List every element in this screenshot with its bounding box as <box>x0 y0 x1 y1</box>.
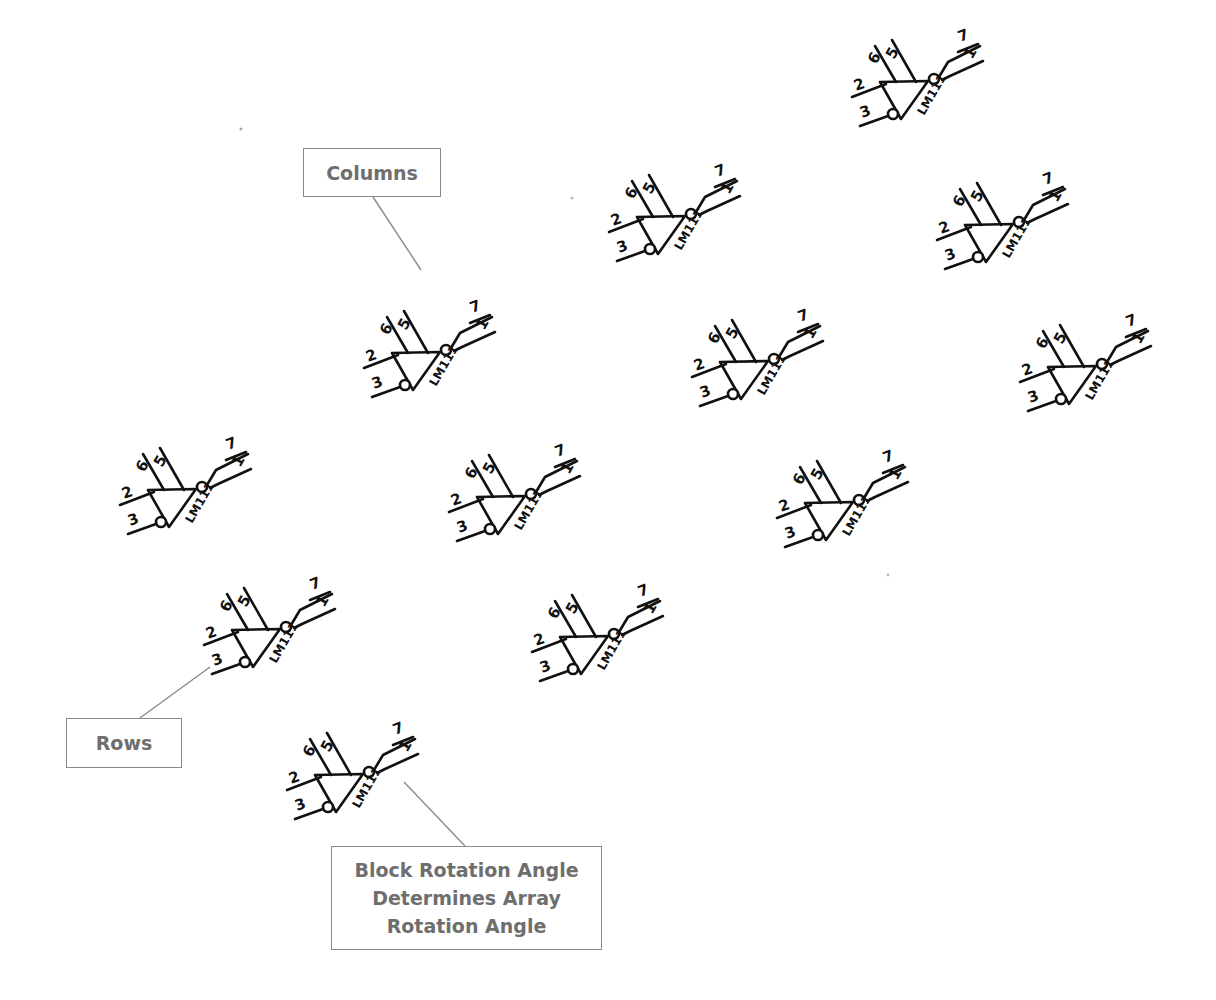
pin-3-label: 3 <box>782 522 798 542</box>
pin-2-label: 2 <box>1019 359 1035 379</box>
pin-5-label: 5 <box>317 737 338 755</box>
pin-7-label: 7 <box>955 25 971 45</box>
lm111-block: 652371LM111 <box>608 160 740 261</box>
block-rotation-callout: Block Rotation Angle Determines Array Ro… <box>331 846 602 950</box>
pin-7-label: 7 <box>552 440 568 460</box>
pin-5-label: 5 <box>639 179 660 197</box>
pin-7-label: 7 <box>1040 168 1056 188</box>
pin-7-label: 7 <box>467 296 483 316</box>
lm111-block: 652371LM111 <box>286 718 418 819</box>
pin-5-label: 5 <box>394 315 415 333</box>
columns-leader-line <box>373 197 421 270</box>
pin-7-label: 7 <box>390 718 406 738</box>
pin-2-label: 2 <box>448 489 464 509</box>
pin-3-label: 3 <box>369 372 385 392</box>
rows-label: Rows <box>96 732 153 754</box>
speck <box>240 128 243 131</box>
pin-3-label: 3 <box>537 656 553 676</box>
pin-3-label: 3 <box>614 236 630 256</box>
pin-2-label: 2 <box>608 209 624 229</box>
pin-5-label: 5 <box>882 44 903 62</box>
pin-7-label: 7 <box>307 573 323 593</box>
pin-5-label: 5 <box>722 324 743 342</box>
speck <box>571 197 574 200</box>
speck <box>887 574 890 577</box>
rows-callout: Rows <box>66 718 182 768</box>
pin-5-label: 5 <box>234 592 255 610</box>
columns-callout: Columns <box>303 148 441 197</box>
lm111-block: 652371LM111 <box>691 305 823 406</box>
pin-3-label: 3 <box>292 794 308 814</box>
pin-3-label: 3 <box>942 244 958 264</box>
rows-leader-line <box>140 667 210 718</box>
block-rotation-leader-line <box>404 782 465 846</box>
pin-7-label: 7 <box>1123 310 1139 330</box>
pin-2-label: 2 <box>691 354 707 374</box>
lm111-block: 652371LM111 <box>363 296 495 397</box>
array-instances: 652371LM111652371LM111652371LM111652371L… <box>119 25 1151 819</box>
pin-2-label: 2 <box>286 767 302 787</box>
pin-3-label: 3 <box>209 649 225 669</box>
pin-3-label: 3 <box>1025 386 1041 406</box>
pin-5-label: 5 <box>967 187 988 205</box>
lm111-block: 652371LM111 <box>448 440 580 541</box>
lm111-block: 652371LM111 <box>119 433 251 534</box>
pin-5-label: 5 <box>150 452 171 470</box>
pin-7-label: 7 <box>223 433 239 453</box>
pin-2-label: 2 <box>119 482 135 502</box>
pin-3-label: 3 <box>697 381 713 401</box>
pin-2-label: 2 <box>936 217 952 237</box>
pin-7-label: 7 <box>635 580 651 600</box>
pin-7-label: 7 <box>712 160 728 180</box>
pin-7-label: 7 <box>795 305 811 325</box>
block-rotation-line-2: Determines Array <box>372 884 561 912</box>
pin-2-label: 2 <box>203 622 219 642</box>
block-rotation-line-1: Block Rotation Angle <box>354 856 578 884</box>
lm111-block: 652371LM111 <box>936 168 1068 269</box>
pin-3-label: 3 <box>125 509 141 529</box>
lm111-block: 652371LM111 <box>851 25 983 126</box>
pin-5-label: 5 <box>479 459 500 477</box>
pin-2-label: 2 <box>363 345 379 365</box>
pin-5-label: 5 <box>1050 329 1071 347</box>
diagram-canvas: 652371LM111652371LM111652371LM111652371L… <box>0 0 1216 1000</box>
pin-2-label: 2 <box>531 629 547 649</box>
pin-3-label: 3 <box>857 101 873 121</box>
pin-7-label: 7 <box>880 446 896 466</box>
columns-label: Columns <box>326 162 418 184</box>
pin-3-label: 3 <box>454 516 470 536</box>
pin-2-label: 2 <box>851 74 867 94</box>
lm111-block: 652371LM111 <box>531 580 663 681</box>
lm111-block: 652371LM111 <box>1019 310 1151 411</box>
lm111-block: 652371LM111 <box>203 573 335 674</box>
pin-5-label: 5 <box>807 465 828 483</box>
pin-5-label: 5 <box>562 599 583 617</box>
lm111-block: 652371LM111 <box>776 446 908 547</box>
block-rotation-line-3: Rotation Angle <box>387 912 547 940</box>
pin-2-label: 2 <box>776 495 792 515</box>
